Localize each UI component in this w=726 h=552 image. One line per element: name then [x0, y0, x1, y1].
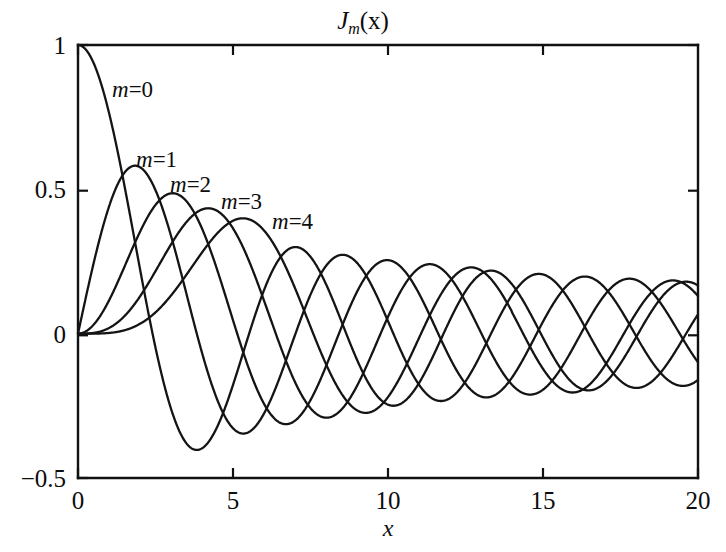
bessel-function-figure: Jm(x) 10.50−	[0, 0, 726, 552]
y-tick-label-1: 0.5	[0, 177, 66, 202]
curve-bessel-j1	[78, 166, 698, 434]
bessel-curves	[78, 45, 698, 450]
y-tick-label-2: 0	[0, 321, 66, 346]
plot-area	[0, 0, 726, 552]
curve-label-m4: m=4	[272, 210, 313, 233]
curve-label-m1: m=1	[136, 148, 177, 171]
curve-bessel-j0	[78, 45, 698, 450]
curve-label-m3: m=3	[221, 190, 262, 213]
x-axis-ticks	[78, 45, 698, 478]
curve-label-m0: m=0	[112, 78, 153, 101]
y-tick-label-0: 1	[0, 33, 66, 58]
curve-bessel-j2	[78, 193, 698, 424]
x-tick-label-2: 10	[376, 488, 401, 513]
x-axis-label: x	[383, 516, 394, 540]
y-axis-ticks	[78, 45, 698, 478]
x-tick-label-4: 20	[686, 488, 711, 513]
y-tick-label-3: −0.5	[0, 466, 66, 491]
curve-label-m2: m=2	[170, 173, 211, 196]
axes-frame	[78, 45, 698, 478]
x-tick-label-0: 0	[72, 488, 85, 513]
x-tick-label-1: 5	[227, 488, 240, 513]
x-tick-label-3: 15	[531, 488, 556, 513]
